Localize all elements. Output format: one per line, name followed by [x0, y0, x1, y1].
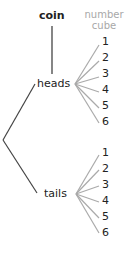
- tails-number: 4: [102, 195, 109, 206]
- tails-cube-branches: [76, 155, 99, 233]
- outcome-heads: heads: [37, 78, 70, 89]
- heads-number: 1: [102, 36, 109, 47]
- heads-number: 3: [102, 68, 109, 79]
- heads-number: 6: [102, 116, 109, 127]
- branch-heads: [3, 84, 35, 140]
- heads-cube-branches: [75, 45, 99, 123]
- tails-number: 5: [102, 211, 109, 222]
- tails-number: 2: [102, 163, 109, 174]
- heads-number: 4: [102, 84, 109, 95]
- tails-number: 6: [102, 227, 109, 238]
- coin-header: coin: [39, 10, 65, 21]
- tree-diagram-lines: [0, 0, 131, 253]
- number-cube-header-line1: number: [82, 9, 126, 20]
- heads-number: 2: [102, 52, 109, 63]
- number-cube-header-line2: cube: [82, 20, 126, 31]
- branch-tails: [3, 140, 37, 193]
- heads-number: 5: [102, 100, 109, 111]
- number-cube-header: number cube: [82, 9, 126, 31]
- tails-number: 3: [102, 179, 109, 190]
- outcome-tails: tails: [44, 188, 67, 199]
- tails-number: 1: [102, 147, 109, 158]
